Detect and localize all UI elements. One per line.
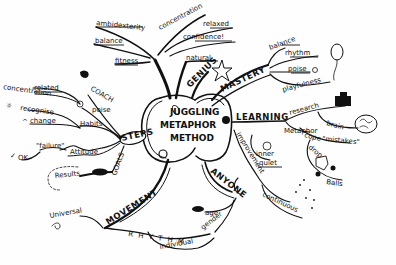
label-drop: drop bbox=[307, 143, 325, 160]
branch-improvement: improvement inner quiet continuous bbox=[234, 130, 315, 218]
label-rhythm: rhythm bbox=[285, 49, 311, 57]
spiral-icon bbox=[313, 68, 318, 73]
books-icon-top bbox=[340, 92, 347, 97]
eye-icon bbox=[92, 169, 108, 176]
label-failure: "failure" bbox=[36, 142, 65, 150]
label-habits: Habits bbox=[80, 120, 103, 128]
balloon-icon bbox=[331, 44, 343, 60]
label-concentration-top: concentration bbox=[157, 2, 204, 32]
label-anyone: ANYONE bbox=[209, 166, 249, 200]
label-attitude: Attitude bbox=[70, 148, 98, 156]
books-icon bbox=[335, 96, 351, 106]
label-change: change bbox=[30, 117, 56, 125]
central-title-line-1: JUGGLING bbox=[169, 107, 219, 117]
label-playfulness: playfulness bbox=[281, 76, 322, 94]
label-mistakes: "mistakes" bbox=[322, 135, 360, 146]
label-continuous: continuous bbox=[261, 191, 300, 215]
whistle-icon bbox=[80, 71, 89, 79]
label-ok: OK bbox=[18, 154, 29, 162]
label-results: Results bbox=[54, 169, 80, 180]
face-icon bbox=[192, 206, 204, 212]
branch-anyone: ANYONE age gender bbox=[192, 162, 249, 232]
label-relaxed-top: relaxed bbox=[203, 20, 229, 28]
label-confidence: confidence! bbox=[183, 33, 224, 41]
label-cope: cope bbox=[303, 131, 321, 143]
label-poise-mastery: poise bbox=[288, 65, 307, 73]
sun-icon: ☼ bbox=[6, 102, 12, 110]
branch-learning: LEARNING research brain Metaphor cope "m… bbox=[232, 92, 377, 188]
label-quiet: quiet bbox=[259, 159, 277, 167]
label-balls: Balls bbox=[326, 178, 344, 188]
ball-icon bbox=[331, 166, 336, 171]
juggling-ball-icon bbox=[222, 116, 230, 124]
caret-icon: ^ bbox=[22, 118, 28, 126]
label-movement: MOVEMENT bbox=[104, 187, 159, 227]
label-inner: inner bbox=[256, 150, 274, 158]
squiggle-icon bbox=[52, 223, 60, 229]
spiral-icon bbox=[263, 142, 271, 150]
label-poise-left: poise bbox=[92, 106, 111, 114]
label-balance-top: balance bbox=[95, 37, 123, 45]
label-recognise: recognise bbox=[20, 104, 55, 117]
central-title-line-3: METHOD bbox=[170, 133, 214, 143]
checkmark-icon: ✓ bbox=[10, 152, 16, 160]
brain-icon bbox=[355, 115, 377, 133]
stars-icon bbox=[295, 179, 315, 209]
mind-map-drawing: JUGGLING METAPHOR METHOD ambidexterity b… bbox=[0, 0, 396, 265]
label-universal: Universal bbox=[49, 206, 83, 220]
label-research: research bbox=[288, 101, 319, 117]
label-goals: GOALS bbox=[110, 151, 126, 177]
central-node: JUGGLING METAPHOR METHOD bbox=[142, 94, 232, 162]
label-brain: brain bbox=[325, 119, 344, 131]
branch-steps: STEPS COACH poise concentration related … bbox=[3, 71, 155, 191]
ball-icon bbox=[316, 172, 321, 177]
label-fitness: fitness bbox=[115, 57, 139, 65]
mind-map-canvas: JUGGLING METAPHOR METHOD ambidexterity b… bbox=[0, 0, 396, 265]
label-learning: LEARNING bbox=[236, 112, 289, 122]
branch-mastery: MASTERY balance rhythm poise playfulness bbox=[212, 35, 343, 106]
central-title-line-2: METAPHOR bbox=[160, 120, 216, 130]
label-related-left: related bbox=[34, 84, 59, 92]
